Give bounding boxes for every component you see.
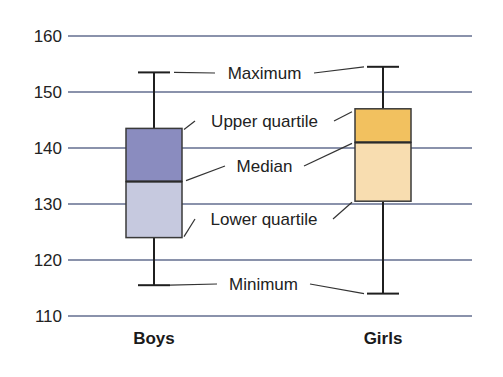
- box-plot-chart: 110120130140150160 MaximumUpper quartile…: [0, 0, 503, 377]
- girls-upper-box: [355, 109, 411, 143]
- annotation-label-median: Median: [237, 157, 293, 176]
- boys-upper-box: [126, 128, 182, 181]
- y-tick-label-110: 110: [35, 307, 62, 326]
- boys-lower-box: [126, 182, 182, 238]
- leader-girls-min: [310, 284, 364, 294]
- y-tick-label-150: 150: [34, 83, 62, 102]
- category-label-girls: Girls: [364, 329, 403, 348]
- y-tick-label-140: 140: [34, 139, 62, 158]
- annotation-label-max: Maximum: [228, 64, 302, 83]
- annotation-label-q1: Lower quartile: [211, 210, 318, 229]
- annotation-max: Maximum: [174, 64, 364, 83]
- leader-boys-q3: [184, 121, 195, 129]
- box-boys: [126, 72, 182, 285]
- leader-boys-max: [174, 72, 215, 73]
- y-tick-label-160: 160: [34, 27, 62, 46]
- annotation-q3: Upper quartile: [184, 112, 352, 131]
- leader-girls-max: [314, 67, 364, 73]
- annotation-min: Minimum: [170, 275, 364, 294]
- y-tick-label-130: 130: [34, 195, 62, 214]
- annotation-q1: Lower quartile: [184, 202, 352, 236]
- leader-boys-median: [186, 166, 225, 181]
- leader-girls-q3: [334, 112, 352, 121]
- leader-boys-q1: [184, 219, 195, 237]
- girls-lower-box: [355, 142, 411, 201]
- y-tick-label-120: 120: [34, 251, 62, 270]
- y-axis-ticks: 110120130140150160: [34, 27, 62, 326]
- leader-girls-median: [304, 143, 352, 166]
- leader-boys-min: [170, 284, 217, 285]
- category-label-boys: Boys: [133, 329, 175, 348]
- annotation-label-q3: Upper quartile: [211, 112, 318, 131]
- annotation-label-min: Minimum: [229, 275, 298, 294]
- x-axis-categories: BoysGirls: [133, 329, 402, 348]
